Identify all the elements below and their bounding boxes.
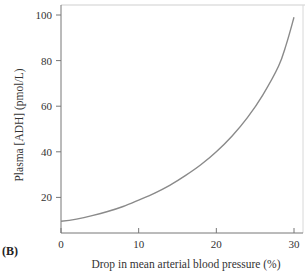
panel-label: (B) <box>2 244 18 258</box>
y-tick-label: 40 <box>41 146 53 158</box>
y-ticks: 20406080100 <box>36 9 62 203</box>
x-ticks: 0102030 <box>58 228 300 250</box>
adh-curve <box>61 17 294 221</box>
x-axis-label: Drop in mean arterial blood pressure (%) <box>91 258 280 271</box>
chart-canvas: 20406080100 0102030 Plasma [ADH] (pmol/L… <box>0 0 305 272</box>
y-tick-label: 80 <box>41 55 53 67</box>
y-axis-label: Plasma [ADH] (pmol/L) <box>13 68 26 181</box>
x-tick-label: 0 <box>58 238 64 250</box>
x-tick-label: 30 <box>289 238 301 250</box>
x-tick-label: 20 <box>211 238 223 250</box>
y-tick-label: 60 <box>41 100 53 112</box>
y-tick-label: 100 <box>36 9 53 21</box>
y-tick-label: 20 <box>41 191 53 203</box>
x-tick-label: 10 <box>133 238 145 250</box>
